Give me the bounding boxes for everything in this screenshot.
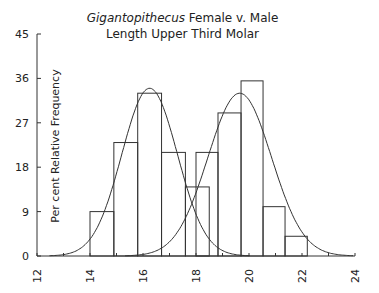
normal-curve-male [125, 93, 353, 256]
x-tick-label: 12 [31, 269, 44, 283]
histogram-bar-male [241, 81, 263, 256]
y-axis-label: Per cent Relative Frequency [49, 69, 62, 223]
histogram-bar-male [218, 113, 241, 256]
histogram-bar-male [263, 207, 285, 256]
histogram-bar-female [162, 152, 186, 256]
histogram-bar-male [196, 152, 218, 256]
histogram-bar-female [138, 93, 162, 256]
y-tick-label: 27 [15, 117, 29, 130]
normal-curves [50, 88, 354, 256]
x-tick-label: 24 [349, 269, 362, 283]
histogram-chart: 091827364512141618202224 Per cent Relati… [0, 0, 379, 293]
x-tick-label: 22 [296, 269, 309, 283]
axes: 091827364512141618202224 [15, 28, 362, 283]
y-tick-label: 36 [15, 72, 29, 85]
histogram-bar-male [285, 236, 307, 256]
y-tick-label: 45 [15, 28, 29, 41]
x-tick-label: 14 [84, 269, 97, 283]
x-tick-label: 20 [243, 269, 256, 283]
y-tick-label: 18 [15, 161, 29, 174]
y-tick-label: 0 [22, 250, 29, 263]
y-tick-label: 9 [22, 206, 29, 219]
histogram-bar-female [185, 187, 209, 256]
x-tick-label: 16 [137, 269, 150, 283]
x-tick-label: 18 [190, 269, 203, 283]
histogram-bar-female [114, 143, 138, 256]
